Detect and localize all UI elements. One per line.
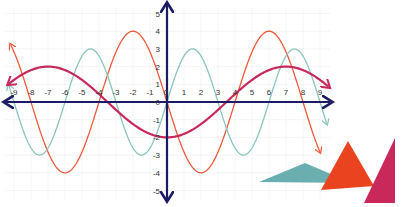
x-tick-label: -9 xyxy=(10,88,18,97)
y-tick-label: -4 xyxy=(153,169,161,178)
x-tick-label: 5 xyxy=(250,88,255,97)
y-tick-label: 4 xyxy=(156,27,161,36)
x-tick-labels: -9-8-7-6-5-4-3-2-10123456789 xyxy=(10,88,322,97)
x-tick-label: 9 xyxy=(318,88,323,97)
crimson-triangle xyxy=(364,138,395,203)
y-tick-label: -1 xyxy=(153,116,161,125)
y-tick-label: 1 xyxy=(156,80,161,89)
x-tick-label: 2 xyxy=(199,88,204,97)
x-tick-label: -2 xyxy=(129,88,137,97)
x-tick-label: 1 xyxy=(182,88,187,97)
y-tick-label: -5 xyxy=(153,187,161,196)
x-tick-label: 6 xyxy=(267,88,272,97)
orange-triangle xyxy=(321,141,374,190)
x-tick-label: -1 xyxy=(146,88,154,97)
x-tick-label: -3 xyxy=(112,88,120,97)
x-tick-label: -7 xyxy=(44,88,52,97)
x-tick-label: 0 xyxy=(164,88,169,97)
x-tick-label: 8 xyxy=(301,88,306,97)
y-tick-label: 2 xyxy=(156,63,161,72)
x-tick-label: -5 xyxy=(78,88,86,97)
x-tick-label: 7 xyxy=(284,88,289,97)
y-tick-label: -2 xyxy=(153,133,161,142)
y-tick-label: 0 xyxy=(156,98,161,107)
x-tick-label: -4 xyxy=(95,88,103,97)
x-tick-label: -8 xyxy=(27,88,35,97)
x-tick-label: 3 xyxy=(216,88,221,97)
chart: -9-8-7-6-5-4-3-2-10123456789 -5-4-3-2-10… xyxy=(0,0,402,207)
y-tick-label: -3 xyxy=(153,151,161,160)
y-tick-label: 3 xyxy=(156,45,161,54)
x-tick-label: 4 xyxy=(233,88,238,97)
decorative-triangles xyxy=(259,138,395,203)
y-tick-label: 5 xyxy=(156,10,161,19)
x-tick-label: -6 xyxy=(61,88,69,97)
